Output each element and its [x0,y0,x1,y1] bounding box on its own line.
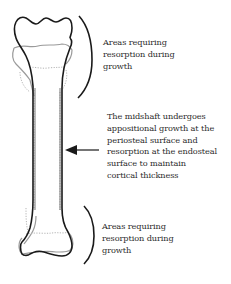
top-bracket-icon [78,16,92,98]
label-line: cortical thickness [107,170,217,182]
label-line: growth [102,245,174,257]
bottom-resorption-label: Areas requiring resorption during growth [102,221,174,256]
bottom-bracket-icon [84,206,94,264]
label-line: The midshaft undergoes [107,111,217,123]
midshaft-description-label: The midshaft undergoes appositional grow… [107,111,217,182]
label-line: Areas requiring [102,221,174,233]
top-resorption-label: Areas requiring resorption during growth [103,37,175,72]
label-line: surface to maintain [107,158,217,170]
label-line: resorption during [102,233,174,245]
label-line: Areas requiring [103,37,175,49]
label-line: resorption at the endosteal [107,146,217,158]
label-line: periosteal surface and [107,135,217,147]
label-line: resorption during [103,49,175,61]
mature-bone-outline [15,17,73,256]
label-line: appositional growth at the [107,123,217,135]
left-arrow-icon [65,145,99,155]
label-line: growth [103,61,175,73]
dotted-growth-outline [20,66,68,234]
